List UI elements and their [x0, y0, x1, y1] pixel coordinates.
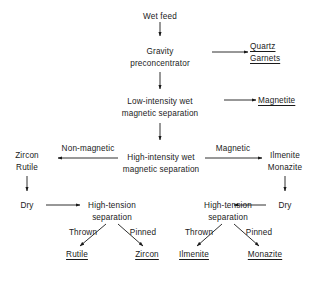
node-high-tension-separation-left: High-tension separation [88, 200, 136, 223]
node-low-intensity-wet-magnetic-separation: Low-intensity wet magnetic separation [122, 96, 199, 119]
node-zircon-rutile-intermediate: Zircon Rutile [15, 150, 39, 173]
edge-label-magnetic: Magnetic [216, 144, 250, 154]
edge-label-pinned-right: Pinned [246, 228, 272, 238]
node-ilmenite-product: Ilmenite [179, 249, 209, 261]
edge-label-thrown-right: Thrown [185, 228, 213, 238]
node-high-intensity-wet-magnetic-separation: High-intensity wet magnetic separation [123, 152, 200, 175]
node-monazite-product: Monazite [248, 249, 282, 261]
node-wet-feed: Wet feed [143, 11, 177, 23]
edge-label-thrown-left: Thrown [69, 228, 97, 238]
node-rutile-product: Rutile [66, 249, 88, 261]
node-ilmenite-monazite-intermediate: Ilmenite Monazite [268, 150, 302, 173]
node-high-tension-separation-right: High-tension separation [204, 200, 252, 223]
node-dry-left: Dry [20, 200, 33, 212]
edge-label-non-magnetic: Non-magnetic [62, 144, 115, 154]
node-magnetite-product: Magnetite [258, 95, 295, 107]
node-zircon-product: Zircon [135, 249, 159, 261]
node-dry-right: Dry [278, 200, 291, 212]
node-gravity-preconcentrator: Gravity preconcentrator [130, 46, 190, 69]
edge-label-pinned-left: Pinned [130, 228, 156, 238]
flowchart-diagram: Wet feed Gravity preconcentrator Quartz … [0, 0, 319, 281]
node-quartz-garnets-product: Quartz Garnets [250, 41, 280, 64]
